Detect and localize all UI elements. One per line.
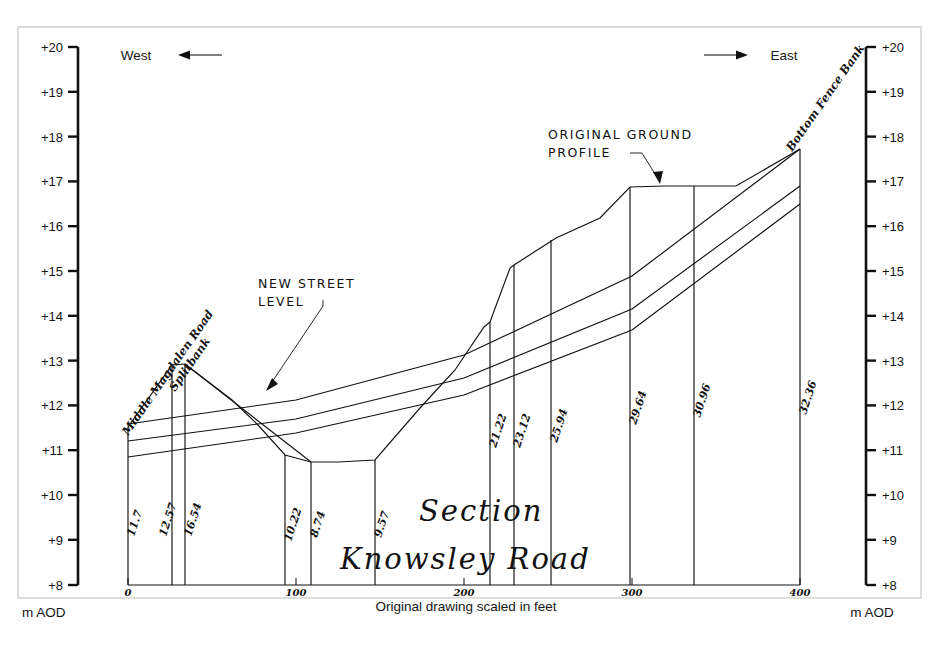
right-axis-tick-13: +13 <box>882 354 904 369</box>
new-street-level-upper <box>128 149 800 424</box>
west-label: West <box>121 48 152 63</box>
east-arrow-icon <box>736 51 748 60</box>
east-arrow-group: East <box>704 48 798 63</box>
new-street-level-lower <box>128 204 800 457</box>
left-axis: +20 +19 +18 +17 +16 +15 +14 +13 +12 +11 … <box>41 40 78 593</box>
right-axis: +20 +19 +18 +17 +16 +15 +14 +13 +12 +11 … <box>866 40 904 593</box>
x-axis-ticks: 0 100 200 300 400 <box>125 578 811 598</box>
west-arrow-icon <box>178 51 190 60</box>
right-axis-tick-10: +10 <box>882 488 904 503</box>
right-axis-tick-9: +9 <box>882 533 897 548</box>
left-axis-tick-8: +8 <box>48 578 63 593</box>
new-street-annotation-line1: NEW STREET <box>258 276 355 291</box>
right-axis-tick-17: +17 <box>882 174 904 189</box>
right-axis-tick-8: +8 <box>882 578 897 593</box>
new-street-annotation: NEW STREET LEVEL <box>258 276 355 391</box>
original-ground-annotation-line2: PROFILE <box>548 145 611 160</box>
right-axis-tick-11: +11 <box>882 443 903 458</box>
right-axis-tick-12: +12 <box>882 398 904 413</box>
east-label: East <box>770 48 797 63</box>
original-ground-leader-arrow-icon <box>653 171 663 184</box>
left-axis-tick-18: +18 <box>41 130 63 145</box>
new-street-leader-line <box>268 300 323 388</box>
right-axis-tick-18: +18 <box>882 130 904 145</box>
right-axis-tick-15: +15 <box>882 264 904 279</box>
right-axis-tick-20: +20 <box>882 40 904 55</box>
x-tick-100: 100 <box>286 587 307 598</box>
new-street-leader-arrow-icon <box>266 378 278 391</box>
left-axis-tick-19: +19 <box>41 85 63 100</box>
left-axis-tick-20: +20 <box>41 40 63 55</box>
right-axis-unit-label: m AOD <box>850 605 894 620</box>
left-axis-tick-17: +17 <box>41 174 63 189</box>
left-axis-tick-9: +9 <box>48 533 63 548</box>
drawing-canvas: +20 +19 +18 +17 +16 +15 +14 +13 +12 +11 … <box>0 0 939 654</box>
x-axis-caption: Original drawing scaled in feet <box>376 599 557 614</box>
right-axis-tick-14: +14 <box>882 309 904 324</box>
left-axis-tick-13: +13 <box>41 354 63 369</box>
original-ground-annotation: ORIGINAL GROUND PROFILE <box>548 127 693 184</box>
x-tick-200: 200 <box>453 587 475 598</box>
x-tick-300: 300 <box>622 587 643 598</box>
drawing-title-line2: Knowsley Road <box>339 542 591 576</box>
left-axis-tick-10: +10 <box>41 488 63 503</box>
left-axis-unit-label: m AOD <box>22 605 66 620</box>
section-drawing: +20 +19 +18 +17 +16 +15 +14 +13 +12 +11 … <box>0 0 939 654</box>
west-arrow-group: West <box>121 48 222 63</box>
x-tick-400: 400 <box>790 587 811 598</box>
x-tick-0: 0 <box>125 587 132 598</box>
left-axis-tick-15: +15 <box>41 264 63 279</box>
right-axis-tick-19: +19 <box>882 85 904 100</box>
new-street-annotation-line2: LEVEL <box>258 294 304 309</box>
drawing-title-line1: Section <box>419 494 543 528</box>
left-axis-tick-12: +12 <box>41 398 63 413</box>
right-axis-tick-16: +16 <box>882 219 904 234</box>
original-ground-leader-line <box>630 153 660 182</box>
chainage-label-12-57: 12.57 <box>156 501 179 538</box>
left-axis-tick-14: +14 <box>41 309 63 324</box>
original-ground-annotation-line1: ORIGINAL GROUND <box>548 127 693 142</box>
left-axis-tick-16: +16 <box>41 219 63 234</box>
left-axis-tick-11: +11 <box>42 443 63 458</box>
